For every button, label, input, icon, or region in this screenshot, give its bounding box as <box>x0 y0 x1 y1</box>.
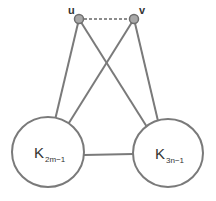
edge-v-right <box>134 19 158 121</box>
vertex-u-label: u <box>68 4 75 16</box>
edge-u-left <box>55 19 79 120</box>
clique-right <box>133 119 203 187</box>
vertex-u <box>75 15 84 24</box>
graph-diagram: K2m−1 K3n−1 u v <box>0 0 216 201</box>
edge-left-right <box>84 154 133 155</box>
clique-left <box>12 117 84 187</box>
edge-v-left <box>67 19 134 126</box>
vertex-v <box>130 15 139 24</box>
vertex-v-label: v <box>139 4 146 16</box>
